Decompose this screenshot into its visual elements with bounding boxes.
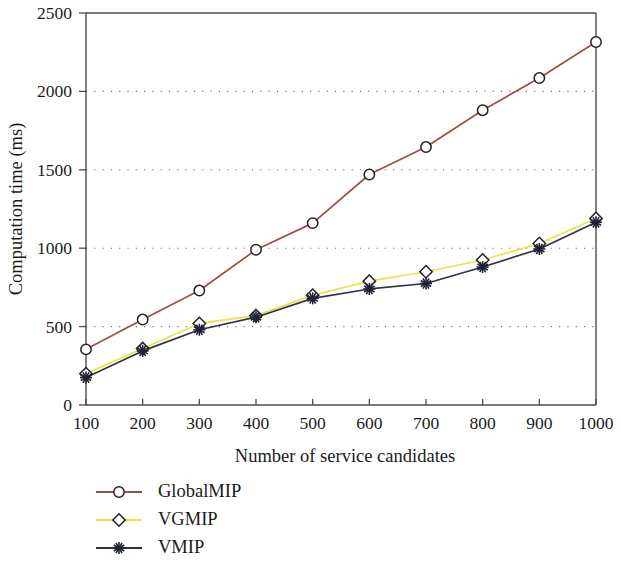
x-tick-label: 500 xyxy=(300,413,327,433)
x-axis-tick-labels: 1002003004005006007008009001000 xyxy=(73,413,614,433)
series-line-vgmip xyxy=(86,218,596,373)
legend-label: VGMIP xyxy=(158,509,218,529)
data-series xyxy=(80,37,602,384)
series-line-vmip xyxy=(86,222,596,377)
series-vgmip xyxy=(86,218,596,373)
x-tick-label: 600 xyxy=(356,413,383,433)
legend-label: VMIP xyxy=(158,537,204,557)
y-axis-title: Computation time (ms) xyxy=(6,123,27,296)
x-tick-label: 800 xyxy=(470,413,497,433)
y-tick-label: 2000 xyxy=(37,81,72,101)
data-point-circle xyxy=(251,245,261,255)
legend-label: GlobalMIP xyxy=(158,481,241,501)
legend-marker-circle xyxy=(114,487,124,497)
legend-item-globalmip[interactable]: GlobalMIP xyxy=(96,481,241,501)
legend-marker-diamond xyxy=(113,514,125,526)
gridlines xyxy=(86,91,596,326)
x-tick-label: 400 xyxy=(243,413,270,433)
x-tick-label: 200 xyxy=(130,413,157,433)
data-point-circle xyxy=(81,344,91,354)
series-line-globalmip xyxy=(86,42,596,349)
line-chart: 05001000150020002500 1002003004005006007… xyxy=(0,0,621,563)
legend-item-vgmip[interactable]: VGMIP xyxy=(96,509,218,529)
series-markers-globalmip xyxy=(81,37,601,355)
data-point-circle xyxy=(307,218,317,228)
data-point-circle xyxy=(421,142,431,152)
axes xyxy=(86,13,596,405)
y-tick-label: 500 xyxy=(46,317,73,337)
y-tick-label: 1000 xyxy=(37,238,72,258)
series-vmip xyxy=(86,222,596,377)
x-tick-label: 1000 xyxy=(579,413,614,433)
x-tick-label: 900 xyxy=(526,413,553,433)
x-tick-label: 700 xyxy=(413,413,440,433)
legend-item-vmip[interactable]: VMIP xyxy=(96,537,204,557)
legend: GlobalMIPVGMIPVMIP xyxy=(96,481,241,557)
data-point-diamond xyxy=(420,266,432,278)
x-axis-title: Number of service candidates xyxy=(235,446,455,466)
data-point-circle xyxy=(194,285,204,295)
series-markers-vmip xyxy=(80,216,602,383)
data-point-circle xyxy=(591,37,601,47)
data-point-star xyxy=(420,277,432,289)
legend-marker-star xyxy=(113,542,125,554)
series-globalmip xyxy=(86,42,596,349)
data-point-circle xyxy=(137,314,147,324)
series-markers-vgmip xyxy=(80,212,602,380)
y-axis-tick-labels: 05001000150020002500 xyxy=(37,3,72,415)
y-tick-label: 2500 xyxy=(37,3,72,23)
x-tick-label: 300 xyxy=(186,413,213,433)
y-tick-label: 1500 xyxy=(37,160,72,180)
data-point-circle xyxy=(534,73,544,83)
data-point-star xyxy=(363,283,375,295)
figure-container: 05001000150020002500 1002003004005006007… xyxy=(0,0,621,563)
data-point-circle xyxy=(477,105,487,115)
y-tick-label: 0 xyxy=(63,395,72,415)
data-point-circle xyxy=(364,169,374,179)
x-tick-label: 100 xyxy=(73,413,100,433)
